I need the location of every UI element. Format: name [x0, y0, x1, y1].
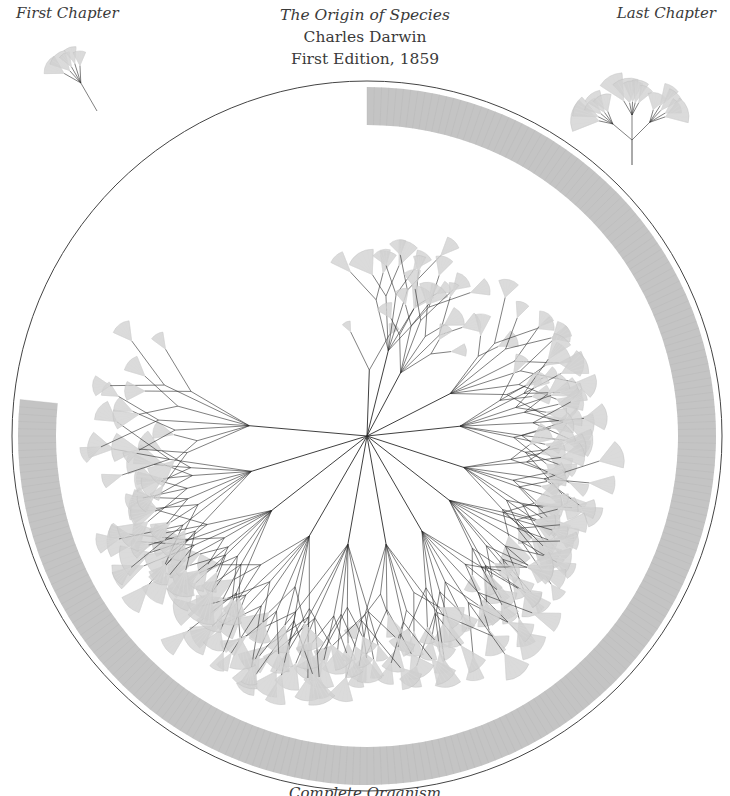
complete-organism-tree: [80, 237, 624, 705]
last-chapter-tree: [571, 73, 689, 165]
edition: First Edition, 1859: [0, 48, 730, 70]
title-block: The Origin of Species Charles Darwin Fir…: [0, 4, 730, 70]
darwin-tree-visualization: [0, 0, 730, 796]
author: Charles Darwin: [0, 26, 730, 48]
book-title: The Origin of Species: [0, 4, 730, 26]
complete-organism-label: Complete Organism: [0, 784, 730, 796]
